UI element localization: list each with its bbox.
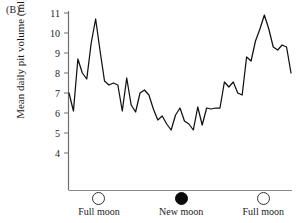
y-axis-tick-label: 6 — [55, 108, 60, 119]
figure-panel-b: (B) Mean daily pit volume (ml) 456789101… — [0, 0, 297, 223]
y-axis-tick-label: 8 — [55, 68, 60, 79]
new-moon-icon — [175, 192, 188, 205]
y-axis-tick-label: 5 — [55, 128, 60, 139]
y-axis-tick-label: 11 — [50, 8, 60, 19]
moon-marker-label: New moon — [136, 206, 226, 217]
moon-marker-label: Full moon — [54, 206, 144, 217]
moon-marker-new-1: New moon — [136, 192, 226, 217]
moon-phase-axis: Full moonNew moonFull moon — [0, 192, 297, 223]
data-series-line — [69, 15, 291, 130]
full-moon-icon — [257, 192, 270, 205]
y-axis-tick-label: 7 — [55, 88, 60, 99]
y-axis-tick-label: 10 — [50, 28, 60, 39]
line-chart-plot: 4567891011 — [0, 0, 297, 223]
moon-marker-full-0: Full moon — [54, 192, 144, 217]
y-axis-ticks: 4567891011 — [50, 8, 69, 159]
moon-marker-label: Full moon — [218, 206, 297, 217]
y-axis-tick-label: 9 — [55, 48, 60, 59]
y-axis-tick-label: 4 — [55, 148, 60, 159]
moon-marker-full-2: Full moon — [218, 192, 297, 217]
full-moon-icon — [92, 192, 105, 205]
